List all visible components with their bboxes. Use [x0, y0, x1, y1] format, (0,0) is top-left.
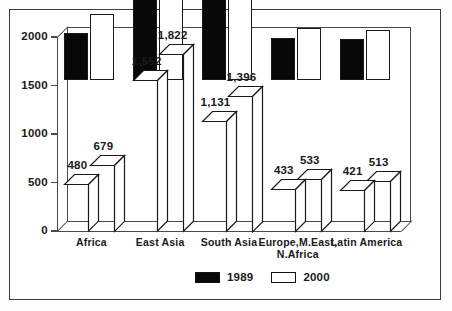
bar-value-label: 1,396	[227, 71, 257, 83]
chart-plot-area: 0500100015002000 4806791,5521,8221,1311,…	[0, 0, 452, 311]
legend-swatch-1989	[195, 272, 220, 283]
y-axis-tick	[51, 133, 57, 134]
y-axis-tick-label-wrap: 1000	[0, 127, 48, 141]
y-axis-tick	[51, 36, 57, 37]
bar-value-label: 421	[343, 165, 363, 177]
y-axis-tick-label-wrap: 0	[0, 224, 48, 238]
chart-legend: 1989 2000	[195, 271, 330, 283]
bar-value-label: 480	[67, 159, 87, 171]
bar-1989	[202, 0, 226, 80]
bar-3d-faces	[228, 86, 264, 233]
y-axis-tick-label-wrap: 500	[0, 176, 48, 190]
bar-value-label: 433	[274, 164, 294, 176]
y-axis-tick	[51, 182, 57, 183]
legend-label-2000: 2000	[303, 271, 329, 283]
y-axis-tick	[51, 85, 57, 86]
bar-3d-faces	[366, 171, 402, 233]
y-axis-tick-label: 2000	[0, 30, 48, 42]
bar-1989	[64, 33, 88, 80]
legend-swatch-2000	[271, 272, 296, 283]
bar-value-label: 1,131	[201, 96, 231, 108]
bar-1989	[133, 0, 157, 80]
bar-2000	[297, 28, 321, 80]
y-axis-front-line	[57, 37, 58, 231]
bar-3d-faces	[271, 179, 307, 233]
chart-screenshot: 0500100015002000 4806791,5521,8221,1311,…	[0, 0, 452, 311]
category-label-line: N.Africa	[249, 248, 346, 260]
bar-value-label: 1,552	[132, 55, 162, 67]
y-axis-tick-label: 0	[0, 224, 48, 236]
bar-2000	[366, 30, 390, 80]
y-axis-tick-label-wrap: 1500	[0, 79, 48, 93]
bar-1989	[271, 38, 295, 80]
bar-value-label: 679	[93, 140, 113, 152]
bar-3d-faces	[64, 174, 100, 233]
bar-3d-faces	[133, 70, 169, 233]
category-label-line: Latin America	[318, 236, 415, 248]
y-axis-tick-label: 500	[0, 176, 48, 188]
bar-2000	[228, 0, 252, 80]
x-axis-back-line	[67, 221, 411, 222]
bar-3d-faces	[340, 180, 376, 233]
category-label: Latin America	[318, 236, 415, 248]
legend-item-2000: 2000	[271, 271, 329, 283]
y-axis-tick-label-wrap: 2000	[0, 30, 48, 44]
bar-value-label: 513	[369, 156, 389, 168]
legend-item-1989: 1989	[195, 271, 253, 283]
y-axis-tick	[51, 230, 57, 231]
y-axis-tick-label: 1500	[0, 79, 48, 91]
bar-value-label: 1,822	[158, 29, 188, 41]
bar-1989	[340, 39, 364, 80]
y-axis-tick-label: 1000	[0, 127, 48, 139]
bar-2000	[90, 14, 114, 80]
bar-value-label: 533	[300, 154, 320, 166]
bar-3d-faces	[297, 169, 333, 233]
legend-label-1989: 1989	[227, 271, 253, 283]
back-wall-right-line	[410, 27, 411, 221]
x-axis-front-line	[57, 231, 401, 232]
bar-3d-faces	[202, 111, 238, 233]
